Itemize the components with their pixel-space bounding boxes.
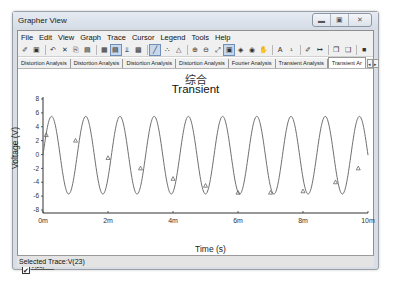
pan-hand-icon[interactable]: ✋ <box>259 45 269 55</box>
y-tick-label: 0 <box>35 151 39 158</box>
minimize-icon: ▬ <box>318 17 325 24</box>
zoom-in-icon[interactable]: ⊕ <box>190 45 200 55</box>
trace-marker <box>204 184 208 188</box>
tab-distortion-analysis-4[interactable]: Distortion Analysis <box>176 59 229 68</box>
trace-marker <box>301 189 305 193</box>
zoom-fit-icon[interactable]: ⤢ <box>213 45 223 55</box>
trace-marker <box>356 166 360 170</box>
tab-distortion-analysis-2[interactable]: Distortion Analysis <box>71 59 124 68</box>
plot-line-icon[interactable]: ╱ <box>150 45 160 55</box>
x-axis-label: Time (s) <box>18 244 373 254</box>
paste-graph-icon[interactable]: ❑ <box>343 45 353 55</box>
close-icon: ✕ <box>357 16 363 24</box>
x-tick-label: 6m <box>233 217 243 224</box>
y-tick-label: 2 <box>35 137 39 144</box>
x-tick-label: 4m <box>168 217 178 224</box>
y-tick-label: -8 <box>33 206 39 213</box>
cursor-prev-icon[interactable]: ◈ <box>236 45 246 55</box>
window-title: Grapher View <box>18 16 67 25</box>
toolbar-separator <box>328 45 329 55</box>
menu-tools[interactable]: Tools <box>191 33 209 42</box>
menu-view[interactable]: View <box>58 33 74 42</box>
toolbar-separator <box>45 45 46 55</box>
trace-marker <box>74 138 78 142</box>
open-icon[interactable]: ✐ <box>20 45 30 55</box>
analysis-tabs: Distortion Analysis Distortion Analysis … <box>18 58 373 69</box>
tab-scroll-right-button[interactable]: ▸ <box>373 59 379 68</box>
toolbar-separator <box>300 45 301 55</box>
menu-bar: File Edit View Graph Trace Cursor Legend… <box>18 31 373 43</box>
cursor-next-icon[interactable]: ◉ <box>247 45 257 55</box>
status-text: Selected Trace:V(23) <box>19 258 85 265</box>
toolbar-separator <box>147 45 148 55</box>
window-controls: ▬ ▣ ✕ <box>312 13 372 27</box>
tab-scroll-buttons: ◂ ▸ <box>367 59 379 68</box>
toggle-legend-icon[interactable]: ▤ <box>111 45 121 55</box>
x-tick-label: 10m <box>361 217 375 224</box>
label-icon[interactable]: ¹ <box>287 45 297 55</box>
properties-icon[interactable]: ✐ <box>303 45 313 55</box>
zoom-out-icon[interactable]: ⊖ <box>201 45 211 55</box>
copy-icon[interactable]: ⎘ <box>71 45 81 55</box>
y-tick-label: -4 <box>33 178 39 185</box>
toolbar: ✐▣↶✕⎘▤▦▤⫫▩╱∴△⊕⊖⤢▣◈◉✋A¹✐↦❐❑■ <box>18 43 373 57</box>
y-tick-label: -6 <box>33 192 39 199</box>
toolbar-separator <box>272 45 273 55</box>
tab-transient-analysis[interactable]: Transient Analysis <box>276 59 328 68</box>
tab-distortion-analysis-3[interactable]: Distortion Analysis <box>123 59 176 68</box>
y-tick-label: 6 <box>35 109 39 116</box>
toolbar-separator <box>356 45 357 55</box>
close-button[interactable]: ✕ <box>349 14 371 26</box>
trace-marker <box>171 177 175 181</box>
status-bar: Selected Trace:V(23) <box>17 255 374 267</box>
maximize-icon: ▣ <box>336 16 343 24</box>
toolbar-separator <box>187 45 188 55</box>
tab-transient-analysis-active[interactable]: Transient Ar <box>328 57 366 68</box>
tab-distortion-analysis-1[interactable]: Distortion Analysis <box>18 59 71 68</box>
menu-graph[interactable]: Graph <box>80 33 101 42</box>
x-tick-label: 0m <box>38 217 48 224</box>
plot-markers-icon[interactable]: △ <box>173 45 183 55</box>
legend: ✔ V(23) <box>22 266 54 274</box>
menu-trace[interactable]: Trace <box>107 33 126 42</box>
x-tick-label: 2m <box>103 217 113 224</box>
trace-marker <box>139 166 143 170</box>
export-icon[interactable]: ↦ <box>315 45 325 55</box>
save-icon[interactable]: ▣ <box>32 45 42 55</box>
menu-cursor[interactable]: Cursor <box>132 33 155 42</box>
y-tick-label: -2 <box>33 165 39 172</box>
menu-file[interactable]: File <box>21 33 33 42</box>
title-bar[interactable]: Grapher View ▬ ▣ ✕ <box>13 12 378 30</box>
menu-legend[interactable]: Legend <box>160 33 185 42</box>
cursor-icon[interactable]: ▣ <box>224 45 234 55</box>
y-tick-label: 4 <box>35 123 39 130</box>
tab-fourier-analysis[interactable]: Fourier Analysis <box>229 59 276 68</box>
y-axis-label: Voltage (V) <box>10 109 20 169</box>
cut-icon[interactable]: ✕ <box>60 45 70 55</box>
grid-icon[interactable]: ▦ <box>99 45 109 55</box>
undo-icon[interactable]: ↶ <box>48 45 58 55</box>
trace-marker <box>334 180 338 184</box>
y-tick-label: 8 <box>35 95 39 102</box>
grapher-window: Grapher View ▬ ▣ ✕ File Edit View Graph … <box>12 11 379 270</box>
menu-edit[interactable]: Edit <box>39 33 52 42</box>
chart-canvas[interactable]: 86420-2-4-6-80m2m4m6m8m10m <box>18 69 375 255</box>
text-icon[interactable]: A <box>275 45 285 55</box>
plot-dots-icon[interactable]: ∴ <box>162 45 172 55</box>
maximize-button[interactable]: ▣ <box>331 14 349 26</box>
copy-graph-icon[interactable]: ❐ <box>331 45 341 55</box>
grapher-content: File Edit View Graph Trace Cursor Legend… <box>17 30 374 266</box>
paste-icon[interactable]: ▤ <box>83 45 93 55</box>
stop-icon[interactable]: ■ <box>359 45 369 55</box>
menu-help[interactable]: Help <box>215 33 230 42</box>
minimize-button[interactable]: ▬ <box>313 14 331 26</box>
trace-v23[interactable] <box>43 116 368 194</box>
dual-axes-icon[interactable]: ⫫ <box>122 45 132 55</box>
x-tick-label: 8m <box>298 217 308 224</box>
overlay-icon[interactable]: ▩ <box>134 45 144 55</box>
toolbar-separator <box>96 45 97 55</box>
plot-area[interactable]: 综合 Transient 86420-2-4-6-80m2m4m6m8m10m … <box>18 69 373 255</box>
trace-marker <box>106 156 110 160</box>
legend-trace-checkbox[interactable]: ✔ <box>22 266 30 274</box>
